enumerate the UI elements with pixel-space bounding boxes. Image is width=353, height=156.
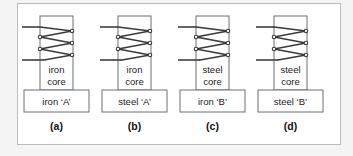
panel-b-core-label-line1: iron <box>127 64 143 75</box>
panel-a-letter: (a) <box>50 120 63 132</box>
panel-d-core-label-line1: steel <box>280 64 300 75</box>
panel-d-core-label-line2: core <box>281 76 299 87</box>
panel-b-loop-node-r1 <box>148 29 151 32</box>
panel-d-loop-node-r1 <box>304 29 307 32</box>
panel-b-loop-node-l1 <box>116 35 119 38</box>
panel-c-loop-node-r3 <box>226 53 229 56</box>
panel-a-loop-node-r3 <box>70 53 73 56</box>
panel-d-loop-node-l1 <box>272 35 275 38</box>
panel-d-loop-node-l2 <box>272 47 275 50</box>
panel-c-core-label-line2: core <box>203 76 221 87</box>
panel-a-loop-node-r2 <box>70 41 73 44</box>
panel-a-loop-node-l2 <box>38 47 41 50</box>
panel-c-letter: (c) <box>206 120 219 132</box>
panel-a-loop-node-l1 <box>38 35 41 38</box>
panel-b-loop-node-l2 <box>116 47 119 50</box>
panel-d-loop-node-r3 <box>304 53 307 56</box>
panel-a-base-label: iron ‘A’ <box>42 96 70 107</box>
panel-a: iron core iron ‘A’ (a) <box>22 16 89 132</box>
panel-c-loop-node-r1 <box>226 29 229 32</box>
panel-b: iron core steel ‘A’ (b) <box>100 16 167 132</box>
panel-c-base-label: iron ‘B’ <box>198 96 227 107</box>
panel-c-loop-node-l2 <box>194 47 197 50</box>
panel-d: steel core steel ‘B’ (d) <box>256 16 323 132</box>
panel-c-loop-node-l1 <box>194 35 197 38</box>
panel-b-base-label: steel ‘A’ <box>118 96 151 107</box>
panel-c-core-label-line1: steel <box>202 64 222 75</box>
panel-c: steel core iron ‘B’ (c) <box>178 16 245 132</box>
panel-b-core-label-line2: core <box>125 76 143 87</box>
panel-b-letter: (b) <box>128 120 141 132</box>
panel-a-loop-node-r1 <box>70 29 73 32</box>
panel-a-core-label-line1: iron <box>49 64 65 75</box>
panel-d-loop-node-r2 <box>304 41 307 44</box>
panel-b-loop-node-r3 <box>148 53 151 56</box>
panel-b-loop-node-r2 <box>148 41 151 44</box>
panel-a-core-label-line2: core <box>47 76 65 87</box>
panel-d-base-label: steel ‘B’ <box>274 96 307 107</box>
solenoid-diagram-svg: iron core iron ‘A’ (a) iron c <box>0 0 353 156</box>
panel-d-letter: (d) <box>284 120 297 132</box>
figure-root: iron core iron ‘A’ (a) iron c <box>0 0 353 156</box>
panel-c-loop-node-r2 <box>226 41 229 44</box>
